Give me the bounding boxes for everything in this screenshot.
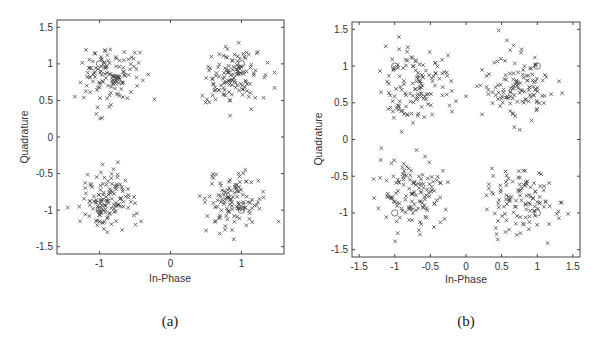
data-point-x-marker bbox=[499, 188, 503, 192]
data-point-x-marker bbox=[397, 35, 401, 39]
data-point-x-marker bbox=[129, 62, 133, 66]
data-point-x-marker bbox=[402, 82, 406, 86]
data-point-x-marker bbox=[88, 203, 92, 207]
data-point-x-marker bbox=[527, 227, 531, 231]
data-point-x-marker bbox=[224, 214, 228, 218]
y-tick-label: 1 bbox=[342, 61, 348, 72]
data-point-x-marker bbox=[441, 94, 445, 98]
data-point-x-marker bbox=[497, 198, 501, 202]
data-point-x-marker bbox=[408, 178, 412, 182]
data-point-x-marker bbox=[214, 98, 218, 102]
data-point-x-marker bbox=[423, 155, 427, 159]
data-point-x-marker bbox=[491, 174, 495, 178]
data-point-x-marker bbox=[438, 196, 442, 200]
data-point-x-marker bbox=[508, 72, 512, 76]
data-point-x-marker bbox=[439, 221, 443, 225]
data-point-x-marker bbox=[88, 75, 92, 79]
data-point-x-marker bbox=[379, 91, 383, 95]
data-point-x-marker bbox=[110, 222, 114, 226]
figure-caption: (b) bbox=[457, 313, 475, 330]
data-point-x-marker bbox=[84, 48, 88, 52]
y-tick-label: -1 bbox=[339, 207, 348, 218]
data-point-x-marker bbox=[385, 80, 389, 84]
data-point-x-marker bbox=[95, 112, 99, 116]
data-point-x-marker bbox=[433, 84, 437, 88]
data-point-x-marker bbox=[405, 50, 409, 54]
data-point-x-marker bbox=[430, 185, 434, 189]
data-point-x-marker bbox=[508, 48, 512, 52]
data-point-x-marker bbox=[201, 94, 205, 98]
data-point-x-marker bbox=[106, 179, 110, 183]
data-point-x-marker bbox=[528, 86, 532, 90]
data-point-x-marker bbox=[514, 199, 518, 203]
data-point-x-marker bbox=[258, 197, 262, 201]
data-point-x-marker bbox=[393, 95, 397, 99]
data-point-x-marker bbox=[542, 205, 546, 209]
data-point-x-marker bbox=[516, 188, 520, 192]
data-point-x-marker bbox=[397, 47, 401, 51]
data-point-x-marker bbox=[496, 84, 500, 88]
data-point-x-marker bbox=[421, 63, 425, 67]
data-point-x-marker bbox=[254, 68, 258, 72]
data-point-x-marker bbox=[519, 231, 523, 235]
data-point-x-marker bbox=[118, 65, 122, 69]
data-point-x-marker bbox=[418, 62, 422, 66]
data-point-x-marker bbox=[127, 196, 131, 200]
data-point-x-marker bbox=[227, 64, 231, 68]
data-point-x-marker bbox=[441, 85, 445, 89]
data-point-x-marker bbox=[208, 195, 212, 199]
data-point-x-marker bbox=[516, 71, 520, 75]
data-point-x-marker bbox=[407, 218, 411, 222]
data-point-x-marker bbox=[216, 198, 220, 202]
data-point-x-marker bbox=[435, 199, 439, 203]
data-point-x-marker bbox=[515, 233, 519, 237]
data-point-x-marker bbox=[222, 71, 226, 75]
data-point-x-marker bbox=[141, 79, 145, 83]
data-point-x-marker bbox=[402, 79, 406, 83]
data-point-x-marker bbox=[138, 51, 142, 55]
data-point-x-marker bbox=[411, 121, 415, 125]
axis-ticks: -1.5-1-0.500.511.51.510.50-0.5-1-1.5 bbox=[331, 22, 580, 272]
plot-frame bbox=[352, 22, 580, 257]
data-point-x-marker bbox=[517, 169, 521, 173]
data-point-x-marker bbox=[432, 225, 436, 229]
data-point-x-marker bbox=[135, 76, 139, 80]
data-point-x-marker bbox=[115, 187, 119, 191]
data-point-x-marker bbox=[92, 195, 96, 199]
data-point-x-marker bbox=[98, 96, 102, 100]
data-point-x-marker bbox=[426, 102, 430, 106]
data-point-x-marker bbox=[566, 212, 570, 216]
y-tick-label: 0.5 bbox=[39, 95, 53, 106]
data-point-x-marker bbox=[247, 95, 251, 99]
data-point-x-marker bbox=[116, 160, 120, 164]
data-point-x-marker bbox=[530, 119, 534, 123]
data-point-x-marker bbox=[411, 211, 415, 215]
data-point-x-marker bbox=[237, 89, 241, 93]
data-point-x-marker bbox=[485, 194, 489, 198]
data-point-x-marker bbox=[86, 173, 90, 177]
data-point-x-marker bbox=[448, 104, 452, 108]
data-point-x-marker bbox=[221, 77, 225, 81]
data-point-x-marker bbox=[557, 216, 561, 220]
data-point-x-marker bbox=[411, 100, 415, 104]
data-point-x-marker bbox=[497, 205, 501, 209]
data-point-x-marker bbox=[77, 205, 81, 209]
data-point-x-marker bbox=[425, 188, 429, 192]
data-point-x-marker bbox=[493, 61, 497, 65]
data-point-x-marker bbox=[522, 76, 526, 80]
data-point-x-marker bbox=[128, 68, 132, 72]
data-point-x-marker bbox=[225, 207, 229, 211]
y-tick-label: 1.5 bbox=[334, 24, 348, 35]
data-point-x-marker bbox=[223, 228, 227, 232]
data-point-x-marker bbox=[226, 218, 230, 222]
data-point-x-marker bbox=[533, 190, 537, 194]
data-point-x-marker bbox=[252, 72, 256, 76]
data-point-x-marker bbox=[512, 211, 516, 215]
data-point-x-marker bbox=[532, 81, 536, 85]
data-point-x-marker bbox=[530, 72, 534, 76]
data-point-x-marker bbox=[241, 52, 245, 56]
data-point-x-marker bbox=[106, 53, 110, 57]
data-point-x-marker bbox=[249, 107, 253, 111]
data-point-x-marker bbox=[110, 172, 114, 176]
data-point-x-marker bbox=[527, 201, 531, 205]
